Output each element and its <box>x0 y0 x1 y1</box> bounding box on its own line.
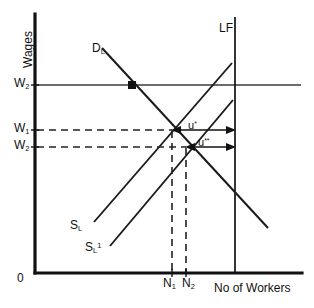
x-tick-label-n2: N2 <box>182 277 195 290</box>
y-tick-label-w2-top-main: W <box>14 76 25 90</box>
wage-ceiling-demand-marker <box>128 81 136 89</box>
demand-curve-label-sub: L <box>101 47 105 56</box>
demand-curve-label-main: D <box>92 41 101 55</box>
y-tick-label-w2-lower-sub: 2 <box>25 144 29 153</box>
y-tick-label-w2-lower: W2 <box>14 139 29 152</box>
y-tick-label-w1: W1 <box>14 122 29 135</box>
u-star-label-sup: * <box>194 120 197 127</box>
u-double-star-label: u** <box>198 137 209 148</box>
x-tick-label-n2-main: N <box>182 276 191 290</box>
y-tick-label-w2-top-sub: 2 <box>25 82 29 91</box>
x-tick-label-n2-sub: 2 <box>191 282 195 291</box>
demand-curve <box>102 48 268 228</box>
y-tick-label-w2-top: W2 <box>14 77 29 90</box>
y-tick-label-w1-sub: 1 <box>25 127 29 136</box>
supply-curve-shifted-label-sup: 1 <box>97 241 101 250</box>
u-star-label: u* <box>188 120 197 131</box>
supply-curve-original-label: SL <box>70 219 82 232</box>
labour-force-label: LF <box>219 22 233 34</box>
x-tick-label-n1: N1 <box>163 277 176 290</box>
x-tick-label-n1-main: N <box>163 276 172 290</box>
supply-curve-original-label-sub: L <box>78 224 82 233</box>
labour-force-label-main: LF <box>219 21 233 35</box>
origin-label: 0 <box>17 272 24 284</box>
demand-curve-label: DL <box>92 42 105 55</box>
supply-curve-shifted-label: SL1 <box>85 241 101 254</box>
supply-curve-original <box>94 63 232 222</box>
labour-market-diagram: Wages No of Workers 0 W2 W1 W2 N1 N2 DL … <box>0 0 314 308</box>
diagram-canvas <box>0 0 314 308</box>
x-axis-title: No of Workers <box>214 282 290 294</box>
u-double-star-label-sup: ** <box>204 137 209 144</box>
supply-curve-shifted-label-main: S <box>85 240 93 254</box>
y-tick-label-w2-lower-main: W <box>14 138 25 152</box>
y-tick-label-w1-main: W <box>14 121 25 135</box>
x-tick-label-n1-sub: 1 <box>172 282 176 291</box>
supply-curve-original-label-main: S <box>70 218 78 232</box>
y-axis-title: Wages <box>22 31 34 68</box>
